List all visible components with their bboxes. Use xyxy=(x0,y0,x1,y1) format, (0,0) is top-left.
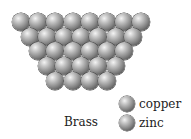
atom-sphere xyxy=(81,72,99,90)
atom-sphere xyxy=(64,72,82,90)
copper-atom-icon xyxy=(119,96,135,112)
atom-sphere xyxy=(46,72,64,90)
diagram-title: Brass xyxy=(64,116,98,128)
legend-label-zinc: zinc xyxy=(139,117,164,129)
legend-label-copper: copper xyxy=(139,98,181,110)
zinc-atom-icon xyxy=(119,115,135,131)
atom-sphere xyxy=(98,72,116,90)
